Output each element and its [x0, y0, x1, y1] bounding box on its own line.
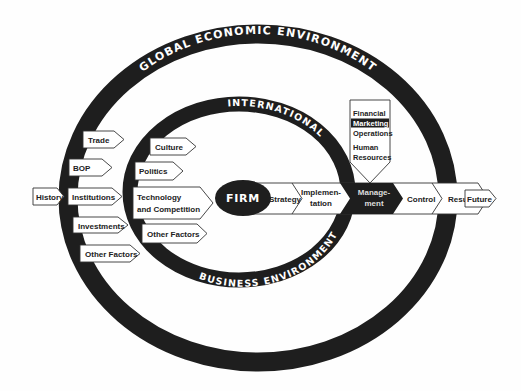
business-environment-diagram: GLOBAL ECONOMIC ENVIRONMENT INTERNATIONA… — [0, 0, 521, 391]
outer-ring-label: GLOBAL ECONOMIC ENVIRONMENT — [137, 24, 380, 75]
inner-factor-culture: Culture — [150, 138, 196, 155]
svg-text:Investments: Investments — [78, 222, 125, 231]
flow-history: History — [33, 188, 64, 205]
svg-text:Technology: Technology — [137, 193, 182, 202]
outer-factor-investments: Investments — [73, 217, 128, 233]
svg-text:and Competition: and Competition — [137, 205, 200, 214]
inner-factor-technology-competition: Technology and Competition — [133, 187, 213, 219]
svg-text:BUSINESS ENVIRONMENT: BUSINESS ENVIRONMENT — [198, 229, 340, 289]
outer-factor-bop: BOP — [69, 159, 112, 176]
flow-future: Future — [465, 190, 496, 207]
svg-text:Financial: Financial — [353, 109, 386, 118]
inner-factor-other-factors: Other Factors — [142, 224, 207, 243]
flow-implementation-1: Implemen- — [301, 188, 341, 197]
svg-text:Marketing: Marketing — [353, 119, 389, 128]
svg-text:Resources: Resources — [353, 153, 391, 162]
flow-management-2: ment — [364, 199, 383, 208]
svg-text:FIRM: FIRM — [226, 192, 260, 205]
svg-text:History: History — [36, 193, 64, 202]
svg-text:Culture: Culture — [155, 143, 184, 152]
inner-ring-label-bottom: BUSINESS ENVIRONMENT — [198, 229, 340, 289]
outer-factor-other-factors: Other Factors — [80, 245, 140, 262]
outer-factor-trade: Trade — [83, 131, 124, 148]
svg-text:Operations: Operations — [353, 129, 393, 138]
svg-text:Other Factors: Other Factors — [85, 250, 138, 259]
outer-factor-institutions: Institutions — [68, 188, 122, 205]
flow-implementation-2: tation — [310, 199, 332, 208]
flow-control: Control — [407, 195, 435, 204]
svg-text:Human: Human — [353, 143, 379, 152]
svg-text:GLOBAL ECONOMIC ENVIRONMENT: GLOBAL ECONOMIC ENVIRONMENT — [137, 24, 380, 75]
svg-text:Other Factors: Other Factors — [147, 230, 200, 239]
svg-text:BOP: BOP — [73, 164, 91, 173]
firm-core: FIRM — [215, 180, 271, 216]
flow-strategy: Strategy — [269, 195, 302, 204]
inner-factor-politics: Politics — [135, 162, 183, 180]
svg-text:Politics: Politics — [139, 167, 168, 176]
svg-text:Future: Future — [467, 195, 492, 204]
flow-management-1: Manage- — [358, 188, 391, 197]
svg-text:Institutions: Institutions — [72, 193, 116, 202]
svg-text:Trade: Trade — [88, 136, 110, 145]
functions-box: Financial Marketing Operations Human Res… — [350, 100, 393, 183]
